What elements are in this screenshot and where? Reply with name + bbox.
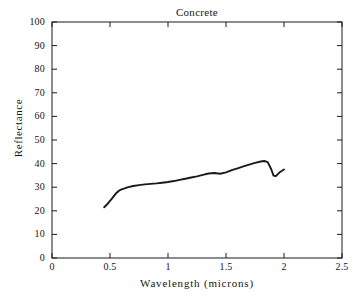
x-tick-label: 2 xyxy=(264,262,304,272)
y-tick-marks xyxy=(52,22,342,258)
y-tick-label: 60 xyxy=(5,111,45,121)
y-tick-label: 70 xyxy=(5,88,45,98)
x-tick-label: 0.5 xyxy=(90,262,130,272)
data-series-group xyxy=(104,161,284,207)
y-tick-label: 20 xyxy=(5,206,45,216)
axes-frame xyxy=(52,22,342,258)
y-tick-label: 100 xyxy=(5,17,45,27)
data-line-1 xyxy=(104,161,284,207)
x-tick-label: 1 xyxy=(148,262,188,272)
x-tick-label: 1.5 xyxy=(206,262,246,272)
y-tick-label: 90 xyxy=(5,41,45,51)
y-tick-label: 10 xyxy=(5,229,45,239)
x-axis-title: Wavelength (microns) xyxy=(52,277,342,289)
chart-figure: Concrete Reflectance Wavelength (microns… xyxy=(0,0,362,298)
x-tick-label: 2.5 xyxy=(322,262,362,272)
y-tick-label: 80 xyxy=(5,64,45,74)
chart-title: Concrete xyxy=(52,6,342,18)
y-tick-label: 30 xyxy=(5,182,45,192)
plot-area xyxy=(0,0,362,298)
x-tick-label: 0 xyxy=(32,262,72,272)
x-tick-marks xyxy=(52,22,342,258)
y-tick-label: 50 xyxy=(5,135,45,145)
y-tick-label: 40 xyxy=(5,159,45,169)
y-axis-title: Reflectance xyxy=(12,68,24,188)
